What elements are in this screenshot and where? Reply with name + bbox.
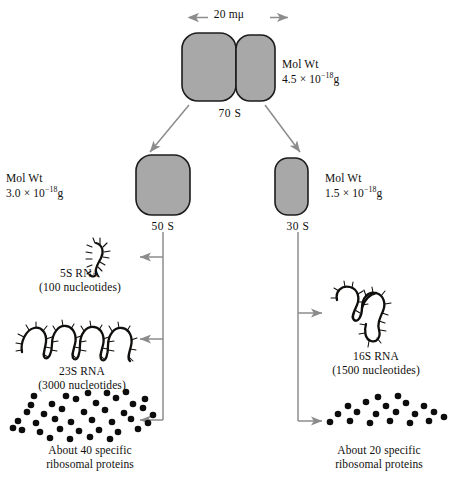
molwt-30s-unit: g: [376, 187, 382, 199]
molwt-50s-label: Mol Wt: [6, 171, 132, 185]
molwt-70s-label: Mol Wt: [282, 57, 339, 71]
caption-proteins-50s-line2: ribosomal proteins: [4, 457, 176, 471]
scale-bar-label: 20 mμ: [0, 7, 458, 21]
molwt-30s-exponent: −18: [364, 185, 377, 194]
caption-5s-rna-title: 5S RNA: [10, 266, 150, 280]
caption-16s-rna-detail: (1500 nucleotides): [300, 363, 452, 377]
molecular-weight-30s: Mol Wt 1.5 × 10−18g: [325, 171, 382, 200]
rna-long-chain-icon: [16, 320, 137, 361]
svalue-30s: 30 S: [268, 219, 328, 233]
caption-16s-rna-title: 16S RNA: [300, 349, 452, 363]
caption-16s-rna: 16S RNA (1500 nucleotides): [300, 349, 452, 377]
component-arrows-30s: [298, 232, 322, 421]
caption-5s-rna-detail: (100 nucleotides): [10, 280, 150, 294]
molwt-50s-value: 3.0 × 10−18g: [6, 186, 132, 200]
molwt-30s-mantissa: 1.5 × 10: [325, 187, 364, 199]
caption-proteins-30s-line1: About 20 specific: [300, 443, 458, 457]
particle-30s-icon: [275, 158, 308, 215]
caption-proteins-50s-line1: About 40 specific: [4, 443, 176, 457]
protein-dots-50s-icon: [10, 389, 157, 443]
protein-dots-30s-icon: [327, 393, 448, 427]
caption-23s-rna: 23S RNA (3000 nucleotides): [2, 364, 162, 392]
diagram-vector-layer: [0, 0, 458, 482]
caption-proteins-30s: About 20 specific ribosomal proteins: [300, 443, 458, 471]
molwt-50s-exponent: −18: [45, 185, 58, 194]
molecular-weight-50s: Mol Wt 3.0 × 10−18g: [6, 171, 132, 200]
caption-proteins-50s: About 40 specific ribosomal proteins: [4, 443, 176, 471]
molwt-50s-unit: g: [57, 187, 63, 199]
svalue-50s: 50 S: [132, 219, 194, 233]
molwt-70s-mantissa: 4.5 × 10: [282, 73, 321, 85]
molecular-weight-70s: Mol Wt 4.5 × 10−18g: [282, 57, 339, 86]
svalue-70s: 70 S: [178, 106, 282, 120]
particle-50s-icon: [136, 155, 190, 215]
particle-70s-icon: [182, 33, 275, 101]
molwt-30s-value: 1.5 × 10−18g: [325, 186, 382, 200]
ribosome-diagram: 20 mμ Mol Wt 4.5 × 10−18g 70 S Mol Wt 3.…: [0, 0, 458, 482]
molwt-30s-label: Mol Wt: [325, 171, 382, 185]
rna-branched-icon: [331, 281, 391, 347]
caption-proteins-30s-line2: ribosomal proteins: [300, 457, 458, 471]
molwt-70s-unit: g: [333, 73, 339, 85]
caption-23s-rna-detail: (3000 nucleotides): [2, 378, 162, 392]
molwt-70s-value: 4.5 × 10−18g: [282, 72, 339, 86]
molwt-70s-exponent: −18: [321, 71, 334, 80]
caption-5s-rna: 5S RNA (100 nucleotides): [10, 266, 150, 294]
caption-23s-rna-title: 23S RNA: [2, 364, 162, 378]
molwt-50s-mantissa: 3.0 × 10: [6, 187, 45, 199]
